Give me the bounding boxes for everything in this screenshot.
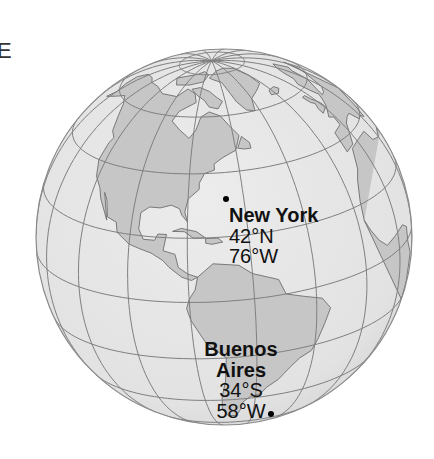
buenos-aires-marker <box>268 411 274 417</box>
new-york-name: New York <box>229 205 318 226</box>
buenos-aires-latitude: 34°S <box>203 380 279 401</box>
new-york-longitude: 76°W <box>229 246 318 267</box>
buenos-aires-name-line2: Aires <box>203 360 279 381</box>
new-york-label: New York 42°N 76°W <box>229 205 318 267</box>
new-york-latitude: 42°N <box>229 226 318 247</box>
buenos-aires-label: Buenos Aires 34°S 58°W <box>203 339 279 421</box>
buenos-aires-name-line1: Buenos <box>203 339 279 360</box>
new-york-marker <box>223 196 229 202</box>
buenos-aires-longitude: 58°W <box>203 401 279 422</box>
